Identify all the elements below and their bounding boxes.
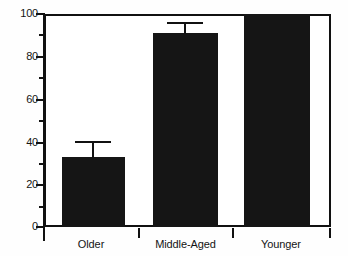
errorbar-cap-older [75,141,111,143]
bar-chart-figure: 100 80 60 40 20 0 Older Middle-Aged Youn… [0,0,348,256]
y-tick-10 [39,206,45,208]
bar-middle-aged [153,33,218,227]
errorbar-cap-middle-aged [167,22,203,24]
x-axis-label-middle-aged: Middle-Aged [139,238,232,250]
x-axis-label-older: Older [44,238,138,250]
y-tick-90 [39,34,45,36]
y-tick-label-40: 40 [0,137,38,148]
x-tick-boundary-0 [43,228,45,238]
x-tick-boundary-1 [138,228,140,238]
y-tick-label-100: 100 [0,8,38,19]
y-tick-label-20: 20 [0,179,38,190]
errorbar-stem-middle-aged [184,23,186,34]
y-tick-label-0: 0 [0,221,38,232]
y-tick-30 [39,163,45,165]
y-tick-50 [39,120,45,122]
bar-younger [244,14,310,227]
x-tick-boundary-3 [329,228,331,238]
x-axis-label-younger: Younger [233,238,329,250]
x-tick-boundary-2 [232,228,234,238]
y-tick-label-80: 80 [0,51,38,62]
bar-older [62,157,125,227]
y-tick-70 [39,77,45,79]
y-tick-label-60: 60 [0,94,38,105]
errorbar-stem-older [92,142,94,158]
